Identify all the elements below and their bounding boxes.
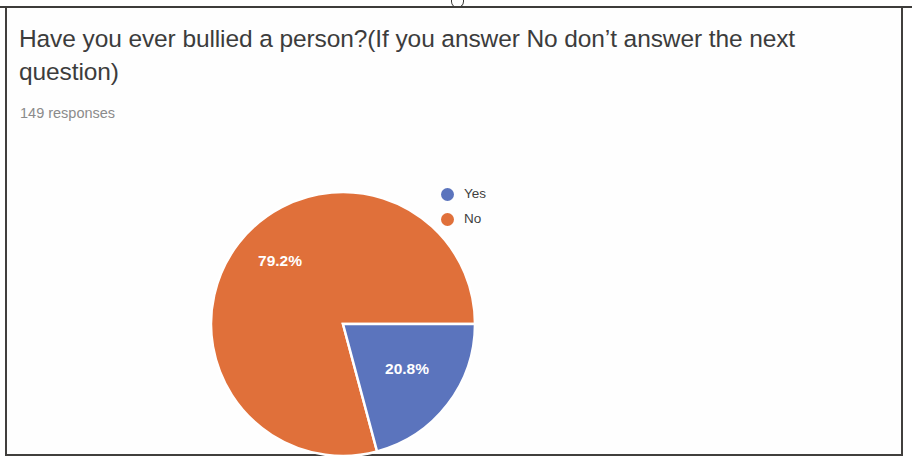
chart-legend: Yes No [441,182,591,232]
pie-chart: 79.2% 20.8% Yes No [7,128,903,454]
legend-label-no: No [464,211,481,227]
pie-svg: 79.2% 20.8% [205,186,481,462]
legend-label-yes: Yes [464,186,486,202]
legend-item-no[interactable]: No [441,207,591,231]
pie-label-yes: 20.8% [385,360,429,377]
card-inner: Have you ever bullied a person?(If you a… [7,8,901,454]
response-count-label: 149 responses [20,103,115,123]
screenshot-root: Have you ever bullied a person?(If you a… [0,0,912,466]
question-result-card: Have you ever bullied a person?(If you a… [5,8,903,456]
legend-item-yes[interactable]: Yes [441,182,591,206]
pie-graphic: 79.2% 20.8% [205,186,481,462]
legend-swatch-no-icon [441,213,454,226]
page-title: Have you ever bullied a person?(If you a… [19,22,887,88]
legend-swatch-yes-icon [441,188,454,201]
pie-label-no: 79.2% [258,252,302,269]
